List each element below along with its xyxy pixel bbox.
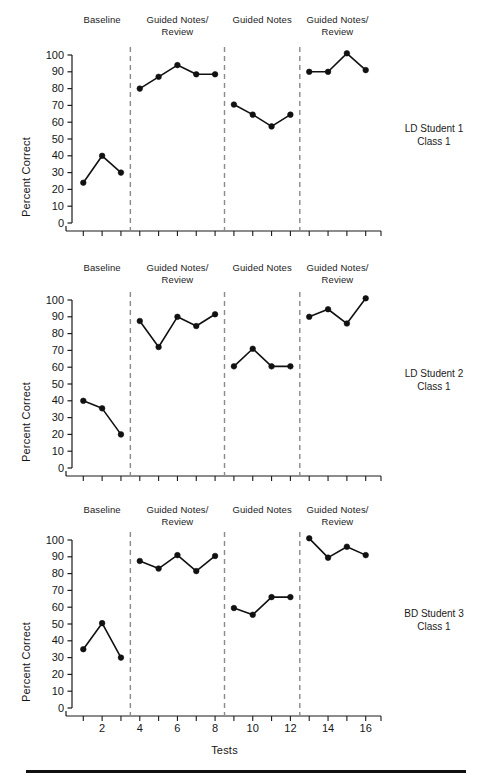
x-tick-label: 16 [356, 723, 376, 734]
y-tick-label: 30 [38, 652, 64, 663]
y-tick-label: 60 [38, 602, 64, 613]
y-tick-label: 50 [38, 619, 64, 630]
y-tick-label: 90 [38, 311, 64, 322]
y-tick-label: 50 [38, 379, 64, 390]
y-tick-label: 60 [38, 362, 64, 373]
y-tick-label: 80 [38, 568, 64, 579]
y-tick-label: 30 [38, 412, 64, 423]
y-tick-label: 60 [38, 117, 64, 128]
phase-header-4: Guided Notes/ Review [287, 262, 387, 285]
y-tick-label: 90 [38, 66, 64, 77]
y-tick-label: 10 [38, 686, 64, 697]
y-tick-label: 40 [38, 395, 64, 406]
y-tick-label: 30 [38, 167, 64, 178]
y-tick-label: 40 [38, 150, 64, 161]
y-tick-label: 20 [38, 669, 64, 680]
y-tick-label: 90 [38, 551, 64, 562]
y-tick-label: 70 [38, 585, 64, 596]
panel-subject-label-3: BD Student 3 Class 1 [384, 607, 484, 633]
y-tick-label: 50 [38, 134, 64, 145]
x-tick-label: 14 [318, 723, 338, 734]
y-tick-label: 10 [38, 201, 64, 212]
phase-header-4: Guided Notes/ Review [287, 14, 387, 37]
bottom-divider-rule [26, 770, 466, 773]
y-tick-label: 100 [38, 535, 64, 546]
y-axis-label: Percent Correct [20, 622, 32, 702]
y-tick-label: 70 [38, 100, 64, 111]
y-tick-label: 100 [38, 295, 64, 306]
phase-header-4: Guided Notes/ Review [287, 504, 387, 527]
x-tick-label: 2 [92, 723, 112, 734]
y-tick-label: 0 [38, 703, 64, 714]
x-tick-label: 8 [205, 723, 225, 734]
y-tick-label: 70 [38, 345, 64, 356]
y-tick-label: 0 [38, 463, 64, 474]
panel-subject-label-1: LD Student 1 Class 1 [384, 122, 484, 148]
y-tick-label: 20 [38, 429, 64, 440]
panel-subject-label-2: LD Student 2 Class 1 [384, 367, 484, 393]
y-tick-label: 10 [38, 446, 64, 457]
y-tick-label: 80 [38, 83, 64, 94]
y-tick-label: 40 [38, 635, 64, 646]
single-subject-design-figure: BaselineGuided Notes/ ReviewGuided Notes… [0, 0, 487, 779]
x-tick-label: 4 [130, 723, 150, 734]
y-tick-label: 20 [38, 184, 64, 195]
x-axis-label: Tests [175, 744, 275, 756]
x-tick-label: 10 [243, 723, 263, 734]
y-axis-label: Percent Correct [20, 382, 32, 462]
x-tick-label: 12 [280, 723, 300, 734]
y-tick-label: 100 [38, 50, 64, 61]
x-tick-label: 6 [167, 723, 187, 734]
y-tick-label: 0 [38, 218, 64, 229]
y-tick-label: 80 [38, 328, 64, 339]
y-axis-label: Percent Correct [20, 137, 32, 217]
